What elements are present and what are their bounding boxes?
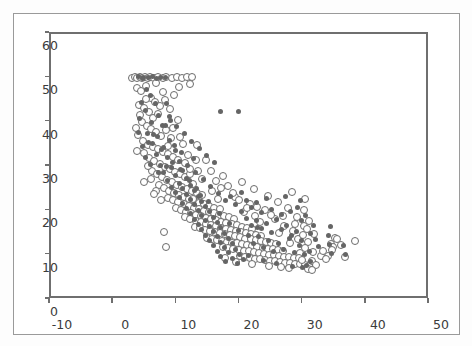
axis-spine-right [426,32,428,298]
x-ticklabel-20: 20 [244,317,260,332]
y-ticklabel-60: 60 [42,38,58,53]
x-ticklabel-10: 10 [180,317,196,332]
y-ticklabel-40: 40 [42,126,58,141]
y-ticklabel-50: 50 [42,82,58,97]
y-tick-60 [45,31,50,32]
y-ticklabel-10: 10 [42,259,58,274]
axis-spine-top [49,32,428,34]
figure-outer-frame: 0102030405060 -1001020304050 [13,13,460,335]
x-ticklabel-30: 30 [307,317,323,332]
x-ticklabel--10: -10 [52,317,72,332]
x-tick-40 [364,298,365,303]
x-tick-10 [175,298,176,303]
x-axis-ticklabels: -1001020304050 [62,317,441,337]
x-tick-50 [427,298,428,303]
figure-canvas: 0102030405060 -1001020304050 [0,0,472,346]
x-tick-30 [301,298,302,303]
y-ticklabel-30: 30 [42,171,58,186]
x-ticklabel-40: 40 [370,317,386,332]
x-ticklabel-0: 0 [121,317,129,332]
x-tick-20 [238,298,239,303]
y-axis-ticklabels: 0102030405060 [28,45,58,311]
axis-spines [49,32,428,298]
plot-area [49,32,428,298]
y-ticklabel-20: 20 [42,215,58,230]
x-ticklabel-50: 50 [433,317,449,332]
x-tick-0 [111,298,112,303]
